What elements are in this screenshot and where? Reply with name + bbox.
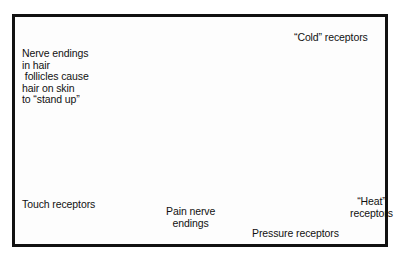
label-pressure-receptors: Pressure receptors (252, 228, 339, 240)
label-pain-nerve-endings: Pain nerve endings (166, 206, 215, 229)
label-touch-receptors: Touch receptors (22, 199, 95, 211)
label-nerve-endings-hair-follicles: Nerve endings in hair follicles cause ha… (22, 48, 89, 106)
label-cold-receptors: “Cold” receptors (294, 32, 368, 44)
label-heat-receptors: “Heat” receptors (350, 196, 393, 219)
figure-canvas: Nerve endings in hair follicles cause ha… (0, 0, 401, 262)
